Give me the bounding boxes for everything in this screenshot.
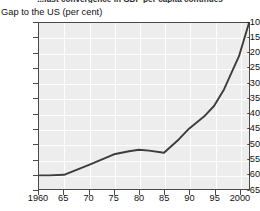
chart-figure: ...fast convergence in GDP per capita co… [0,0,260,211]
x-tick-mark [189,190,190,195]
y-tick-mark [33,114,38,115]
x-tick-mark [164,190,165,195]
x-tick-mark [38,190,39,195]
y-tick-label: -30 [226,79,260,88]
y-tick-label: -40 [226,109,260,118]
y-tick-mark [33,53,38,54]
chart-supertitle: ...fast convergence in GDP per capita co… [0,0,260,3]
y-tick-label: -60 [226,170,260,179]
x-tick-mark [215,190,216,195]
y-axis-caption: Gap to the US (per cent) [1,7,102,18]
y-tick-label: -20 [226,48,260,57]
y-tick-label: -50 [226,140,260,149]
plot-area [38,22,250,190]
y-tick-label: -15 [226,33,260,42]
y-tick-mark [33,144,38,145]
data-series-line [39,23,249,189]
y-tick-label: -55 [226,155,260,164]
y-tick-label: -10 [226,18,260,27]
y-tick-label: -35 [226,94,260,103]
y-tick-mark [33,98,38,99]
x-tick-label: 2000 [220,194,260,203]
y-tick-label: -45 [226,124,260,133]
y-tick-mark [33,129,38,130]
x-tick-mark [240,190,241,195]
x-tick-mark [89,190,90,195]
y-tick-label: -25 [226,63,260,72]
y-tick-mark [33,37,38,38]
y-tick-mark [33,83,38,84]
x-tick-mark [114,190,115,195]
x-tick-mark [139,190,140,195]
y-tick-mark [33,160,38,161]
y-tick-mark [33,68,38,69]
y-tick-mark [33,22,38,23]
y-tick-mark [33,175,38,176]
x-tick-mark [63,190,64,195]
